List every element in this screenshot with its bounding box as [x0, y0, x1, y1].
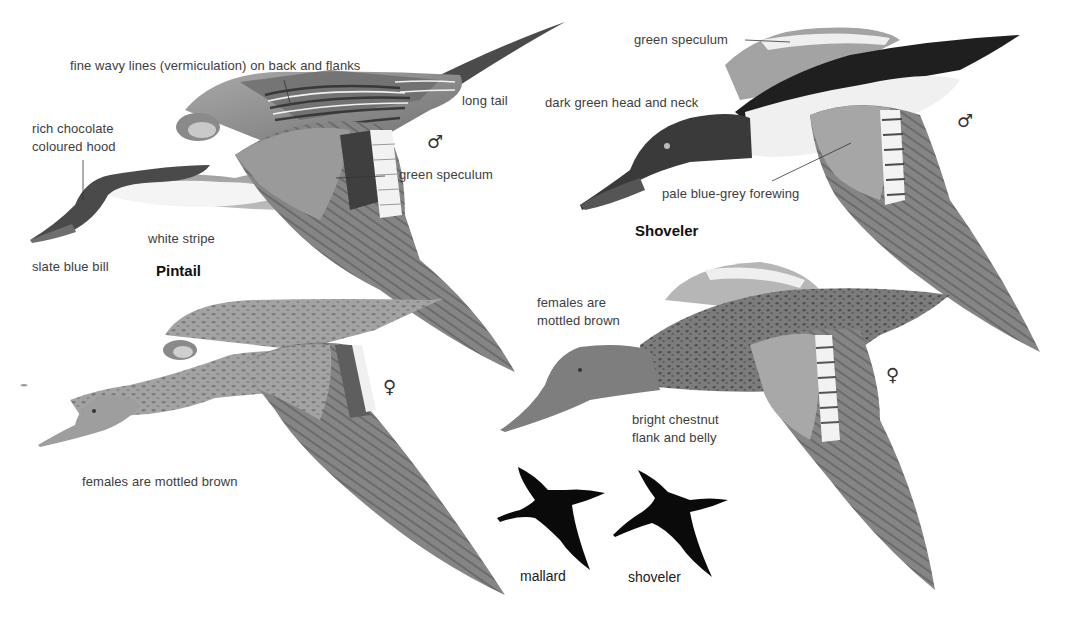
pintail-hood-label: rich chocolate coloured hood — [32, 120, 116, 156]
bird-illustrations — [0, 0, 1067, 618]
mallard-silhouette — [497, 467, 605, 570]
pintail-speculum-label: green speculum — [399, 166, 493, 184]
shoveler-species-title: Shoveler — [635, 222, 698, 239]
female-symbol-icon: ♀ — [383, 378, 396, 396]
male-symbol-icon: ♂ — [957, 112, 973, 130]
mallard-silhouette-label: mallard — [520, 568, 566, 584]
field-guide-plate: fine wavy lines (vermiculation) on back … — [0, 0, 1067, 618]
pintail-bill-label: slate blue bill — [32, 258, 109, 276]
shoveler-speculum-label: green speculum — [634, 31, 728, 49]
pintail-species-title: Pintail — [156, 262, 201, 279]
shoveler-forewing-label: pale blue-grey forewing — [662, 185, 799, 203]
shoveler-female-mottled-label: females are mottled brown — [537, 294, 620, 330]
shoveler-silhouette — [613, 470, 728, 577]
female-symbol-icon: ♀ — [886, 366, 899, 384]
pintail-long-tail-label: long tail — [462, 92, 508, 110]
pintail-vermiculation-label: fine wavy lines (vermiculation) on back … — [70, 57, 360, 75]
shoveler-silhouette-label: shoveler — [628, 569, 681, 585]
shoveler-female-flank-label: bright chestnut flank and belly — [632, 411, 719, 447]
male-symbol-icon: ♂ — [427, 133, 443, 151]
pintail-white-stripe-label: white stripe — [148, 230, 215, 248]
shoveler-head-label: dark green head and neck — [545, 94, 698, 112]
pintail-female-mottled-label: females are mottled brown — [82, 473, 238, 491]
pintail-female-illustration — [20, 298, 505, 595]
